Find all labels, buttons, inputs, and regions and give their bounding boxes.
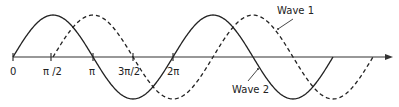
axis-arrow-icon — [385, 54, 393, 60]
tick-label-2pi: 2π — [167, 66, 179, 77]
wave-1-leader-dot — [277, 28, 279, 30]
wave-2-leader — [248, 69, 258, 81]
tick-label-pi-half: π /2 — [43, 66, 62, 77]
wave-2-label: Wave 2 — [232, 84, 269, 95]
wave-1-leader — [278, 19, 293, 29]
tick-label-0: 0 — [10, 66, 16, 77]
wave-diagram: 0 π /2 π 3π/2 2π Wave 1 Wave 2 — [0, 0, 399, 107]
tick-label-pi: π — [89, 66, 95, 77]
wave-1-label: Wave 1 — [277, 5, 314, 16]
tick-label-3pi-half: 3π/2 — [118, 66, 140, 77]
wave-2-leader-dot — [257, 68, 259, 70]
